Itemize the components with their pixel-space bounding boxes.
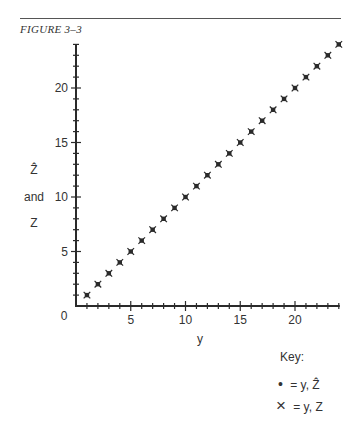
svg-text:0: 0 [61,309,68,323]
legend-entry-z: × = y, Z [276,396,323,416]
data-points [84,41,342,298]
legend-label-z: = y, Z [293,400,322,414]
x-axis-label: y [197,332,203,346]
legend-entry-zhat: • = y, Ẑ [278,376,320,392]
y-axis-label-and: and [19,190,49,204]
svg-text:15: 15 [55,136,69,150]
legend-label-zhat: = y, Ẑ [290,378,319,392]
svg-text:15: 15 [234,313,248,327]
svg-text:5: 5 [61,245,68,259]
svg-text:10: 10 [55,190,69,204]
svg-text:5: 5 [127,313,134,327]
dot-marker-icon: • [278,376,283,392]
svg-text:20: 20 [55,81,69,95]
svg-text:20: 20 [288,313,302,327]
x-marker-icon: × [276,396,286,415]
svg-text:10: 10 [179,313,193,327]
legend-title: Key: [280,350,304,364]
y-axis-label-zhat: Ẑ [19,163,49,177]
y-axis-label-z: Z [19,216,49,230]
